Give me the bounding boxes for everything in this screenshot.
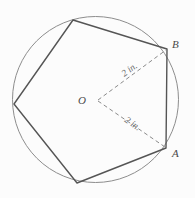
geometry-figure: 2 in. 2 in. O B A	[0, 0, 195, 198]
vertex-b-label: B	[172, 38, 179, 50]
circumscribed-circle	[13, 17, 179, 183]
center-point-label: O	[78, 94, 86, 106]
vertex-a-label: A	[171, 147, 179, 159]
radius-to-b-measure-label: 2 in.	[119, 61, 139, 79]
radius-to-b-line	[98, 50, 166, 100]
geometry-canvas: 2 in. 2 in. O B A	[0, 0, 195, 198]
